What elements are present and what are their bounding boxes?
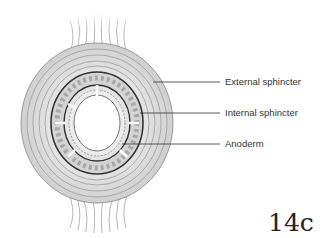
label-anoderm: Anoderm: [225, 138, 264, 149]
sphincter-illustration: [0, 0, 323, 238]
label-internal-sphincter: Internal sphincter: [225, 107, 298, 118]
figure-number: 14c: [268, 208, 314, 237]
label-external-sphincter: External sphincter: [225, 76, 301, 87]
